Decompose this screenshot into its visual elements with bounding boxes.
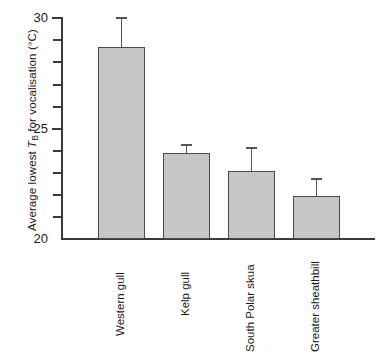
error-bar-line-3 bbox=[251, 148, 253, 172]
error-bar-cap-3 bbox=[246, 147, 257, 149]
bar-south-polar-skua bbox=[228, 171, 275, 239]
error-bar-line-1 bbox=[121, 18, 123, 49]
error-bar-cap-4 bbox=[311, 178, 322, 180]
x-category-label-south-polar-skua: South Polar skua bbox=[245, 264, 257, 352]
plot-area bbox=[0, 0, 384, 355]
bar-kelp-gull bbox=[163, 153, 210, 239]
error-bar-cap-1 bbox=[116, 17, 127, 19]
x-category-label-greater-sheathbill: Greater sheathbill bbox=[310, 261, 322, 352]
bar-greater-sheathbill bbox=[293, 196, 340, 239]
bar-chart-figure: Average lowest TB for vocalisation (°C) … bbox=[0, 0, 384, 355]
bar-western-gull bbox=[98, 47, 145, 239]
x-category-label-western-gull: Western gull bbox=[115, 272, 127, 336]
error-bar-cap-2 bbox=[181, 144, 192, 146]
error-bar-line-4 bbox=[316, 179, 318, 197]
x-category-label-kelp-gull: Kelp gull bbox=[180, 272, 192, 316]
